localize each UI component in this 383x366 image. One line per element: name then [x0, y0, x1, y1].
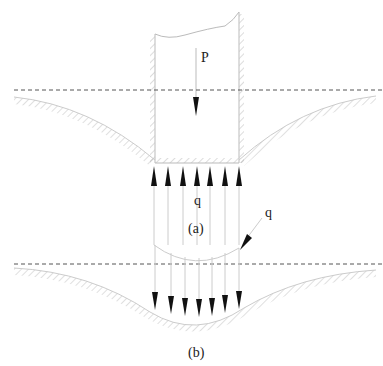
diagram-canvas: P q (a) — [0, 0, 383, 366]
panel-a: P q (a) — [14, 12, 383, 245]
ground-surface-a-left — [14, 97, 155, 166]
pressure-q-label-b: q — [265, 205, 272, 220]
load-p-arrow — [193, 48, 199, 116]
ground-surface-b — [14, 268, 376, 332]
pressure-q-label-a: q — [194, 193, 201, 208]
ground-surface-a-right — [239, 96, 376, 166]
pressure-q-leader-arrow — [240, 218, 262, 250]
load-p-label: P — [201, 50, 209, 65]
pressure-arrows-b — [152, 245, 242, 317]
footing-column — [150, 12, 244, 163]
caption-a: (a) — [188, 221, 204, 237]
caption-b: (b) — [188, 345, 205, 361]
pressure-distribution-curve — [154, 245, 239, 261]
